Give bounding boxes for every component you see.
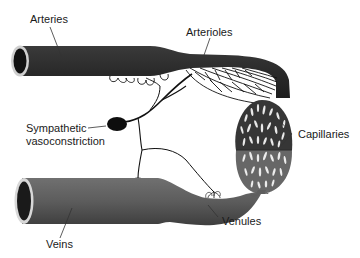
label-arteries: Arteries — [30, 13, 68, 26]
label-venules: Venules — [222, 215, 261, 228]
artery — [11, 46, 290, 99]
label-veins: Veins — [46, 238, 73, 251]
capillary-bed — [235, 100, 292, 194]
label-arterioles: Arterioles — [186, 26, 232, 39]
label-vasoconstriction: vasoconstriction — [26, 135, 105, 148]
label-capillaries: Capillaries — [298, 128, 349, 141]
label-sympathetic: Sympathetic — [26, 122, 87, 135]
microcirculation-diagram: Arteries Arterioles Sympathetic vasocons… — [0, 0, 360, 258]
ganglion-icon — [107, 117, 127, 131]
